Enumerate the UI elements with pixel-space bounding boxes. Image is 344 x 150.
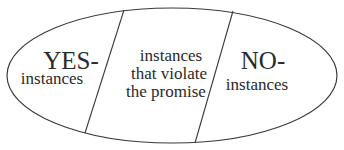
violate-region-line-3: the promise: [126, 82, 206, 101]
violate-region-line-1: instances: [140, 46, 202, 65]
no-region-label: instances: [226, 75, 288, 94]
violate-region-line-2: that violate: [131, 64, 207, 83]
yes-region-label: instances: [21, 69, 83, 88]
diagram-canvas: YES- instances instances that violate th…: [0, 0, 344, 150]
promise-problem-diagram: YES- instances instances that violate th…: [0, 0, 344, 150]
no-region-title: NO-: [241, 47, 285, 74]
